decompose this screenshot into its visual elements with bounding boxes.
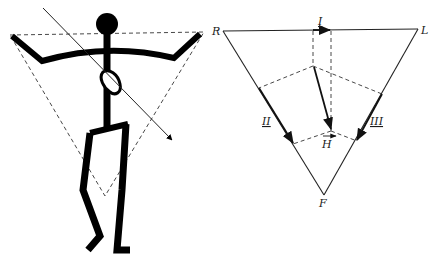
einthoven-diagram: R L F I II III H bbox=[0, 0, 436, 260]
figure-head bbox=[96, 13, 118, 35]
vertex-label-f: F bbox=[318, 197, 327, 210]
triangle-panel: R L F I II III H bbox=[211, 15, 428, 210]
diagram-canvas: R L F I II III H bbox=[0, 0, 436, 260]
proj-line-3a bbox=[313, 66, 382, 94]
vertex-label-l: L bbox=[420, 24, 428, 37]
figure-panel bbox=[10, 8, 204, 250]
lead-3-side bbox=[324, 29, 418, 195]
lead-1-label: I bbox=[317, 15, 323, 28]
vertex-label-r: R bbox=[211, 25, 220, 38]
heart-vector-label: H bbox=[321, 138, 332, 151]
figure-leg-right bbox=[83, 133, 100, 250]
lead-3-label: III bbox=[369, 115, 384, 128]
heart-vector bbox=[314, 67, 331, 129]
figure-leg-left bbox=[117, 124, 130, 250]
proj-line-2a bbox=[259, 66, 313, 88]
lead-2-label: II bbox=[261, 115, 271, 128]
